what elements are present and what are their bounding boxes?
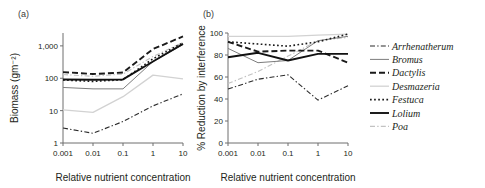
panel-b-x-tick-label: 10 [344, 149, 353, 158]
panel-a-y-tick-label: 100 [45, 74, 59, 83]
panel-b-x-tick-label: 0.01 [250, 149, 266, 158]
legend-item-festuca[interactable]: Festuca [370, 94, 424, 105]
panel-a: (a)1101001,0000.0010.010.1110Relative nu… [9, 9, 191, 183]
panel-b-series-bromus [228, 36, 348, 62]
panel-b-x-tick-label: 0.1 [282, 149, 294, 158]
legend-item-dactylis[interactable]: Dactylis [370, 67, 425, 78]
panel-b: (b)0204060801000.0010.010.1110Relative n… [196, 9, 356, 183]
legend-label-dactylis: Dactylis [391, 67, 425, 78]
panel-a-y-axis-title: Biomass (gm⁻²) [9, 53, 20, 123]
panel-a-series-lolium [63, 44, 183, 80]
panel-a-y-tick-label: 1 [54, 139, 59, 148]
panel-b-y-tick-label: 0 [219, 139, 224, 148]
legend-label-arrhenatherum: Arrhenatherum [391, 41, 453, 52]
panel-b-y-tick-label: 20 [214, 117, 223, 126]
legend-label-bromus: Bromus [392, 54, 423, 65]
legend-label-festuca: Festuca [391, 94, 424, 105]
legend-item-poa[interactable]: Poa [370, 121, 408, 132]
panel-b-y-tick-label: 100 [210, 29, 224, 38]
panel-a-x-tick-label: 10 [179, 149, 188, 158]
figure-svg: (a)1101001,0000.0010.010.1110Relative nu… [0, 0, 485, 188]
figure-container: (a)1101001,0000.0010.010.1110Relative nu… [0, 0, 485, 188]
panel-a-y-tick-label: 1,000 [38, 42, 59, 51]
panel-b-y-axis-title: % Reduction by interference [196, 25, 207, 151]
legend-item-lolium[interactable]: Lolium [370, 108, 420, 119]
panel-b-x-axis-title: Relative nutrient concentration [220, 172, 355, 183]
panel-a-series-poa [63, 42, 183, 76]
legend-label-poa: Poa [391, 121, 408, 132]
panel-a-x-tick-label: 1 [151, 149, 156, 158]
legend-item-arrhenatherum[interactable]: Arrhenatherum [370, 41, 453, 52]
panel-b-x-tick-label: 0.001 [218, 149, 239, 158]
panel-b-series-arrhenatherum [228, 75, 348, 100]
panel-a-x-tick-label: 0.1 [117, 149, 129, 158]
panel-b-label: (b) [203, 9, 214, 19]
panel-b-y-tick-label: 60 [214, 73, 223, 82]
legend: ArrhenatherumBromusDactylisDesmazeriaFes… [370, 41, 453, 132]
panel-b-y-tick-label: 80 [214, 51, 223, 60]
panel-b-series-desmazeria [228, 34, 348, 36]
panel-a-label: (a) [18, 9, 29, 19]
legend-item-bromus[interactable]: Bromus [370, 54, 423, 65]
legend-item-desmazeria[interactable]: Desmazeria [370, 81, 440, 92]
panel-a-series-arrhenatherum [63, 94, 183, 133]
panel-a-y-tick-label: 10 [49, 107, 58, 116]
panel-b-x-tick-label: 1 [316, 149, 321, 158]
panel-a-x-tick-label: 0.01 [85, 149, 101, 158]
panel-a-x-tick-label: 0.001 [53, 149, 74, 158]
panel-b-y-tick-label: 40 [214, 95, 223, 104]
legend-label-desmazeria: Desmazeria [391, 81, 440, 92]
legend-label-lolium: Lolium [391, 108, 420, 119]
panel-a-x-axis-title: Relative nutrient concentration [55, 172, 190, 183]
